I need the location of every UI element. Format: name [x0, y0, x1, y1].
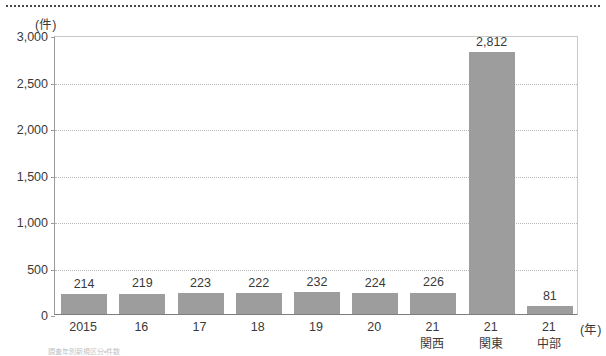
x-axis-tick-label-year: 21	[425, 320, 439, 334]
y-axis-tick-label: 2,000	[3, 124, 55, 137]
x-axis-tick-label-year: 20	[367, 320, 381, 334]
bar-value-label: 2,812	[463, 36, 521, 49]
x-axis-tick-label: 19	[287, 319, 345, 336]
chart-page: { "chart_data": { "type": "bar", "title"…	[0, 0, 606, 356]
bars-layer: 2142192232222322242262,81281	[55, 37, 577, 314]
x-axis-unit-label: (年)	[580, 319, 601, 338]
bar-group[interactable]: 81	[521, 35, 579, 314]
bar-group[interactable]: 222	[230, 35, 288, 314]
bar[interactable]	[294, 292, 340, 314]
bar-group[interactable]: 214	[55, 35, 113, 314]
bar-value-label: 223	[172, 277, 230, 290]
x-axis-tick-label-year: 21	[484, 320, 498, 334]
bar[interactable]	[236, 293, 282, 314]
x-axis-tick-label-region: 関西	[403, 336, 461, 352]
x-axis-tick-label: 21中部	[520, 319, 578, 352]
x-axis-tick-label-year: 18	[251, 320, 265, 334]
bar-group[interactable]: 2,812	[463, 35, 521, 314]
x-axis-labels: 2015161718192021関西21関東21中部	[54, 319, 578, 355]
y-axis-tick-label: 1,000	[3, 217, 55, 230]
bar-value-label: 224	[346, 277, 404, 290]
x-axis-tick-label: 2015	[54, 319, 112, 336]
bar-group[interactable]: 219	[113, 35, 171, 314]
bar-group[interactable]: 232	[288, 35, 346, 314]
bar-value-label: 214	[55, 278, 113, 291]
bar-group[interactable]: 226	[404, 35, 462, 314]
bar-group[interactable]: 224	[346, 35, 404, 314]
x-axis-tick-label-year: 21	[542, 320, 556, 334]
x-axis-tick-label-year: 2015	[69, 320, 97, 334]
x-axis-tick-label-year: 19	[309, 320, 323, 334]
bar-group[interactable]: 223	[172, 35, 230, 314]
bar[interactable]	[469, 52, 515, 314]
x-axis-tick-label: 20	[345, 319, 403, 336]
x-axis-tick-label: 21関東	[462, 319, 520, 352]
bar-value-label: 232	[288, 276, 346, 289]
y-axis-tick-label: 3,000	[3, 31, 55, 44]
bar-value-label: 226	[404, 276, 462, 289]
bar[interactable]	[119, 294, 165, 314]
y-axis-tick-label: 1,500	[3, 170, 55, 183]
bar-value-label: 81	[521, 290, 579, 303]
x-axis-tick-label: 18	[229, 319, 287, 336]
plot-area: 05001,0001,5002,0002,5003,000 2142192232…	[54, 36, 578, 315]
bar[interactable]	[352, 293, 398, 314]
bar[interactable]	[61, 294, 107, 314]
bar-value-label: 222	[230, 277, 288, 290]
x-axis-tick-label-region: 関東	[462, 336, 520, 352]
y-axis-tick-label: 500	[3, 263, 55, 276]
x-axis-tick-label-region: 中部	[520, 336, 578, 352]
bar[interactable]	[178, 293, 224, 314]
x-axis-tick-label-year: 16	[134, 320, 148, 334]
x-axis-tick-label: 21関西	[403, 319, 461, 352]
bar[interactable]	[410, 293, 456, 314]
top-dotted-divider	[6, 5, 600, 7]
y-axis-tick-label: 0	[3, 310, 55, 323]
x-axis-tick-label: 17	[171, 319, 229, 336]
y-axis-tick-label: 2,500	[3, 77, 55, 90]
bar[interactable]	[527, 306, 573, 314]
bar-value-label: 219	[113, 277, 171, 290]
x-axis-tick-label-year: 17	[193, 320, 207, 334]
x-axis-tick-label: 16	[112, 319, 170, 336]
chart-footnote: 調査年別新規区分・件数	[48, 348, 120, 355]
